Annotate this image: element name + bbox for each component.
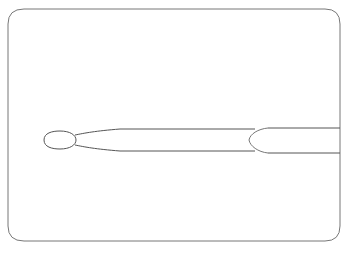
frame-border xyxy=(8,9,340,241)
drumstick-grip-curve xyxy=(249,128,268,153)
drumstick-diagram xyxy=(0,0,348,255)
drumstick-shoulder-top xyxy=(75,129,255,135)
drumstick-shoulder-bottom xyxy=(75,145,255,151)
drumstick-tip xyxy=(44,131,76,149)
